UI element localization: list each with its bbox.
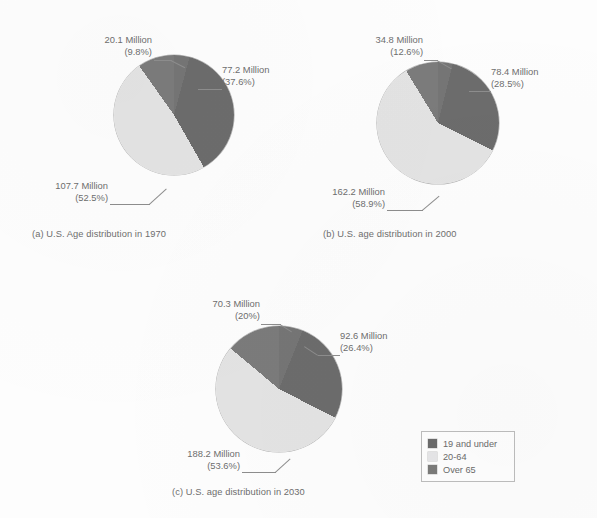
pie-chart-1970 xyxy=(114,55,234,175)
caption-2000: (b) U.S. age distribution in 2000 xyxy=(323,229,456,239)
leader-line-2064-1970-b xyxy=(149,189,167,205)
callout-value: 20.1 Million xyxy=(105,34,152,45)
legend-swatch-20-64 xyxy=(428,452,437,461)
callout-value: 77.2 Million xyxy=(222,64,269,75)
leader-line-2064-1970 xyxy=(110,204,150,205)
legend-item-over-65[interactable]: Over 65 xyxy=(428,463,507,476)
callout-value: 107.7 Million xyxy=(55,180,108,191)
legend-label-20-64: 20-64 xyxy=(443,452,467,462)
callout-19under-2030: 92.6 Million (26.4%) xyxy=(340,330,432,355)
callout-value: 34.8 Million xyxy=(376,34,423,45)
caption-2030: (c) U.S. age distribution in 2030 xyxy=(172,487,305,497)
callout-over65-2000: 34.8 Million (12.6%) xyxy=(335,34,423,59)
callout-2064-1970: 107.7 Million (52.5%) xyxy=(12,180,108,205)
callout-value: 70.3 Million xyxy=(213,298,260,309)
pie-chart-2030 xyxy=(216,326,342,452)
legend-label-over-65: Over 65 xyxy=(443,465,476,475)
legend-swatch-19-and-under xyxy=(428,439,437,448)
callout-percent: (26.4%) xyxy=(340,342,432,354)
leader-line-19under-2000 xyxy=(469,91,491,92)
figure-canvas: 20.1 Million (9.8%) 77.2 Million (37.6%)… xyxy=(0,0,597,518)
callout-percent: (20%) xyxy=(172,310,260,322)
leader-line-2064-2000-b xyxy=(422,196,439,211)
leader-line-2064-2030-b xyxy=(275,459,291,473)
callout-value: 78.4 Million xyxy=(491,66,538,77)
callout-2064-2000: 162.2 Million (58.9%) xyxy=(281,186,385,211)
leader-line-2064-2030 xyxy=(242,472,276,473)
callout-value: 188.2 Million xyxy=(187,448,240,459)
callout-over65-2030: 70.3 Million (20%) xyxy=(172,298,260,323)
callout-percent: (12.6%) xyxy=(335,46,423,58)
caption-1970: (a) U.S. Age distribution in 1970 xyxy=(32,229,166,239)
callout-percent: (52.5%) xyxy=(12,192,108,204)
pie-slices-1970 xyxy=(114,55,234,175)
callout-percent: (53.6%) xyxy=(136,460,240,472)
leader-line-2064-2000 xyxy=(387,210,423,211)
legend-swatch-over-65 xyxy=(428,465,437,474)
pie-slices-2000 xyxy=(377,62,499,184)
callout-percent: (9.8%) xyxy=(68,46,152,58)
callout-19under-2000: 78.4 Million (28.5%) xyxy=(491,66,583,91)
callout-percent: (28.5%) xyxy=(491,78,583,90)
leader-line-19under-2030 xyxy=(318,355,340,356)
pie-panel-2000: 34.8 Million (12.6%) 78.4 Million (28.5%… xyxy=(297,0,597,258)
callout-value: 92.6 Million xyxy=(340,330,387,341)
leader-line-over65-2030 xyxy=(261,324,281,325)
legend-item-20-64[interactable]: 20-64 xyxy=(428,450,507,463)
legend-item-19-and-under[interactable]: 19 and under xyxy=(428,437,507,450)
pie-chart-2000 xyxy=(377,62,499,184)
pie-slices-2030 xyxy=(216,326,342,452)
callout-over65-1970: 20.1 Million (9.8%) xyxy=(68,34,152,59)
leader-line-19under-1970 xyxy=(198,89,222,90)
legend: 19 and under 20-64 Over 65 xyxy=(421,431,515,482)
callout-2064-2030: 188.2 Million (53.6%) xyxy=(136,448,240,473)
callout-value: 162.2 Million xyxy=(332,186,385,197)
legend-label-19-and-under: 19 and under xyxy=(443,439,497,449)
callout-percent: (58.9%) xyxy=(281,198,385,210)
pie-panel-1970: 20.1 Million (9.8%) 77.2 Million (37.6%)… xyxy=(0,0,300,258)
